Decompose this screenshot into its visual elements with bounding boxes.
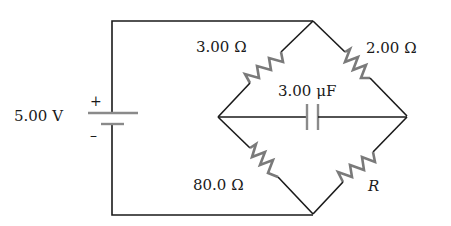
capacitor xyxy=(218,104,407,130)
resistor-top-right xyxy=(313,21,407,116)
left-wire-bottom xyxy=(112,124,313,215)
battery-plus-sign: + xyxy=(90,93,102,109)
resistor-bottom-right xyxy=(313,117,407,214)
capacitor-label: 3.00 μF xyxy=(278,82,336,100)
battery-minus-sign: – xyxy=(90,127,97,143)
circuit-diagram: + – 5.00 V 3.00 Ω 2.00 Ω 3.00 μF 80.0 Ω … xyxy=(0,0,451,226)
resistor-bottom-right-label: R xyxy=(367,177,379,195)
resistor-bottom-left xyxy=(218,117,313,214)
resistor-top-right-label: 2.00 Ω xyxy=(366,39,417,57)
resistor-bottom-left-label: 80.0 Ω xyxy=(193,176,244,194)
battery xyxy=(88,113,138,124)
resistor-top-left xyxy=(218,21,313,117)
resistor-top-left-label: 3.00 Ω xyxy=(196,38,247,56)
battery-label: 5.00 V xyxy=(14,107,64,125)
